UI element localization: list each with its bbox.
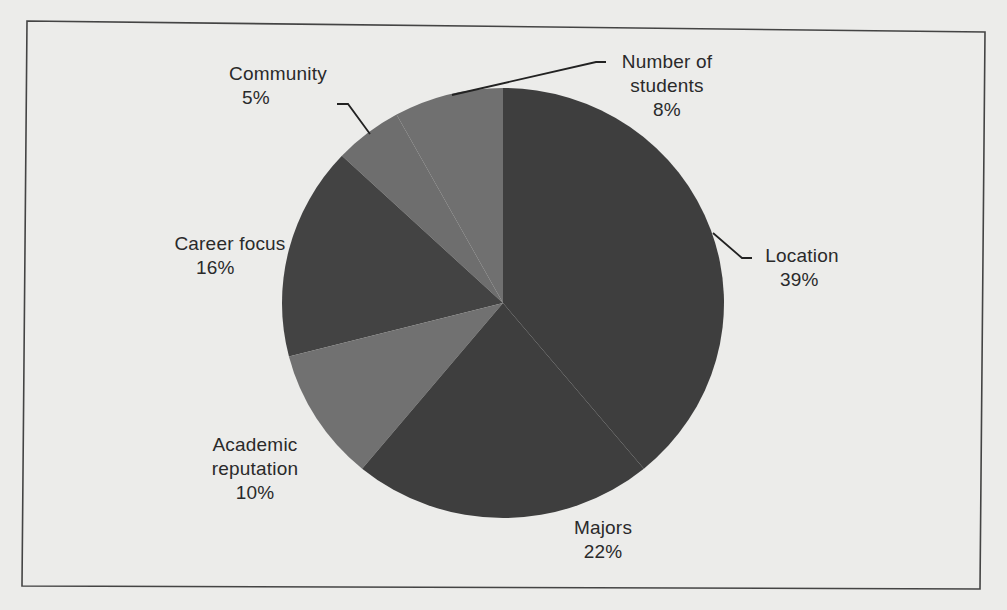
- label-career-name: Career focus: [156, 232, 304, 256]
- pie-slices: [282, 88, 724, 518]
- leader-line-location: [713, 233, 752, 258]
- label-majors: Majors 22%: [553, 516, 653, 564]
- label-career: Career focus 16%: [156, 232, 304, 280]
- label-community: Community 5%: [218, 62, 338, 110]
- label-academic-pct: 10%: [190, 481, 320, 505]
- label-academic-name1: Academic: [190, 433, 320, 457]
- label-academic: Academic reputation 10%: [190, 433, 320, 505]
- label-location: Location 39%: [752, 244, 852, 292]
- label-students-name2: students: [604, 74, 730, 98]
- pie-chart: [0, 0, 1007, 610]
- label-academic-name2: reputation: [190, 457, 320, 481]
- label-community-name: Community: [218, 62, 338, 86]
- label-majors-pct: 22%: [553, 540, 653, 564]
- leader-line-community: [337, 104, 370, 134]
- label-majors-name: Majors: [553, 516, 653, 540]
- label-location-name: Location: [752, 244, 852, 268]
- label-students-name1: Number of: [604, 50, 730, 74]
- label-career-pct: 16%: [156, 256, 304, 280]
- label-students: Number of students 8%: [604, 50, 730, 122]
- label-students-pct: 8%: [604, 98, 730, 122]
- label-location-pct: 39%: [752, 268, 852, 292]
- label-community-pct: 5%: [218, 86, 338, 110]
